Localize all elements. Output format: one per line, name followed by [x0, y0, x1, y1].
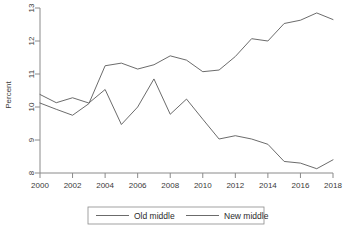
- x-axis-ticks: [40, 173, 333, 178]
- x-tick-label: 2018: [324, 181, 342, 190]
- y-tick-label: 8: [27, 170, 36, 175]
- x-tick-label: 2000: [31, 181, 49, 190]
- y-tick-label: 12: [27, 36, 36, 45]
- x-tick-label: 2002: [64, 181, 82, 190]
- y-axis-ticks: [35, 8, 40, 173]
- x-tick-label: 2008: [161, 181, 179, 190]
- chart-canvas: 8910111213 Percent 200020022004200620082…: [0, 0, 343, 230]
- y-axis-tick-labels: 8910111213: [27, 3, 36, 175]
- series-line-old-middle: [40, 79, 333, 169]
- y-axis-title: Percent: [4, 80, 13, 108]
- x-tick-label: 2006: [129, 181, 147, 190]
- data-series-group: [40, 13, 333, 169]
- legend-label-old-middle: Old middle: [134, 211, 175, 221]
- y-tick-label: 11: [27, 69, 36, 78]
- series-line-new-middle: [40, 13, 333, 115]
- legend-label-new-middle: New middle: [224, 211, 269, 221]
- y-tick-label: 10: [27, 102, 36, 111]
- x-tick-label: 2016: [292, 181, 310, 190]
- x-tick-label: 2014: [259, 181, 277, 190]
- x-tick-label: 2012: [226, 181, 244, 190]
- x-axis: 2000200220042006200820102012201420162018: [31, 173, 342, 190]
- y-tick-label: 9: [27, 137, 36, 142]
- x-tick-label: 2010: [194, 181, 212, 190]
- y-tick-label: 13: [27, 3, 36, 12]
- chart-legend: Old middle New middle: [88, 207, 269, 224]
- y-axis: 8910111213 Percent: [4, 3, 40, 175]
- line-chart: 8910111213 Percent 200020022004200620082…: [0, 0, 343, 230]
- x-axis-tick-labels: 2000200220042006200820102012201420162018: [31, 181, 342, 190]
- x-tick-label: 2004: [96, 181, 114, 190]
